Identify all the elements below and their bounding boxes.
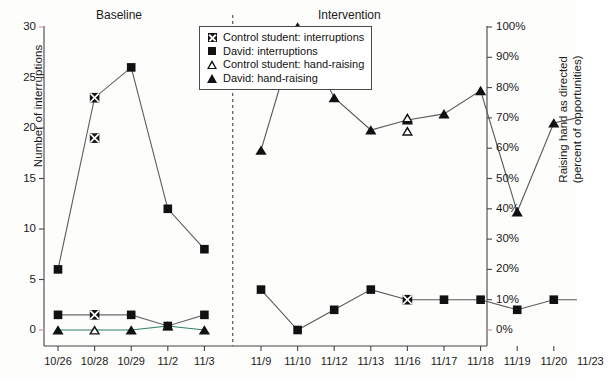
david-interruptions-marker [550,295,559,304]
y-tick-label-left: 25 [0,71,36,83]
y-tick-label-right: 90% [496,50,519,62]
david-interruptions-marker [127,311,136,320]
david-interruptions-line-intervention [261,290,577,330]
david-interruptions-marker [164,205,173,214]
triangle-open-icon [205,60,219,69]
legend-label-0: Control student: interruptions [223,31,364,44]
square-x-icon [205,33,219,42]
david-handraising-marker [548,118,559,127]
david-handraising-marker [438,109,449,118]
legend-item-0: Control student: interruptions [205,31,364,45]
control-interruptions-marker [403,295,413,305]
david-interruptions-marker [54,265,63,274]
y-tick-label-left: 20 [0,121,36,133]
y-tick-label-right: 60% [496,141,519,153]
control-interruptions-marker [90,133,100,143]
legend-label-3: David: hand-raising [223,72,318,85]
triangle-filled-icon [205,74,219,83]
legend-item-3: David: hand-raising [205,72,364,86]
y-tick-label-left: 10 [0,222,36,234]
legend-label-2: Control student: hand-raising [223,58,364,71]
david-interruptions-marker [200,245,209,254]
david-handraising-marker [475,86,486,95]
david-interruptions-marker [367,285,376,294]
control-handraising-marker [402,126,413,135]
legend-item-1: David: interruptions [205,45,364,59]
square-filled-icon [205,47,219,55]
control-interruptions-marker [90,93,100,103]
legend-item-2: Control student: hand-raising [205,58,364,72]
legend-label-1: David: interruptions [223,45,318,58]
david-interruptions-marker [293,326,302,335]
david-interruptions-marker [476,295,485,304]
x-tick-label: 11/23 [568,355,608,367]
y-tick-label-right: 30% [496,232,519,244]
y-tick-label-left: 5 [0,273,36,285]
david-interruptions-marker [127,63,136,72]
david-interruptions-marker [330,306,339,315]
david-interruptions-marker [513,306,522,315]
y-tick-label-left: 15 [0,172,36,184]
y-tick-label-right: 0% [496,323,513,335]
david-interruptions-marker [257,285,266,294]
x-tick-label: 11/3 [182,355,226,367]
david-interruptions-marker [54,311,63,320]
y-tick-label-right: 70% [496,111,519,123]
david-interruptions-marker [440,295,449,304]
control-interruptions-marker [90,310,100,320]
david-interruptions-line-baseline [58,67,204,269]
y-tick-label-right: 80% [496,81,519,93]
y-tick-label-right: 100% [496,20,525,32]
y-tick-label-left: 0 [0,323,36,335]
david-handraising-marker [255,145,266,154]
y-tick-label-right: 20% [496,262,519,274]
y-tick-label-right: 40% [496,202,519,214]
y-tick-label-right: 10% [496,293,519,305]
david-interruptions-marker [200,311,209,320]
legend: Control student: interruptions David: in… [199,26,372,90]
control-handraising-marker [402,113,413,122]
david-handraising-marker [329,93,340,102]
y-tick-label-right: 50% [496,172,519,184]
y-tick-label-left: 30 [0,20,36,32]
